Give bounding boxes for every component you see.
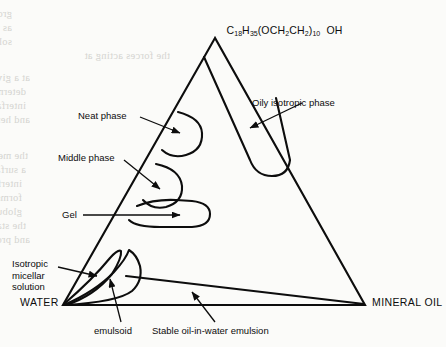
apex-formula-label: C18H35(OCH2CH2)10 OH — [214, 13, 343, 51]
region-gel — [129, 200, 210, 227]
leader-neat-phase — [140, 117, 180, 133]
middle-phase-label: Middle phase — [58, 152, 115, 164]
stable-emulsion-label: Stable oil-in-water emulsion — [152, 325, 269, 337]
region-emulsoid — [64, 250, 141, 305]
region-stable-oil-in-water-emulsion — [126, 276, 364, 304]
neat-phase-label: Neat phase — [78, 110, 127, 122]
oily-isotropic-phase-label: Oily isotropic phase — [252, 97, 335, 109]
leader-stable-emulsion — [192, 292, 215, 322]
emulsoid-label: emulsoid — [94, 325, 132, 337]
gel-label: Gel — [62, 209, 77, 221]
region-isotropic-micellar-solution — [64, 251, 121, 305]
water-vertex-label: WATER — [20, 297, 59, 309]
leader-emulsoid — [110, 279, 121, 322]
mineral-oil-vertex-label: MINERAL OIL — [372, 297, 443, 309]
ternary-phase-diagram — [0, 0, 446, 347]
region-oily-isotropic-phase — [204, 57, 290, 176]
leader-isotropic-micellar-solution — [58, 267, 97, 276]
figure-page: group of the surfactant molecule is imme… — [0, 0, 446, 347]
isotropic-micellar-solution-label: Isotropic micellar solution — [12, 258, 48, 293]
